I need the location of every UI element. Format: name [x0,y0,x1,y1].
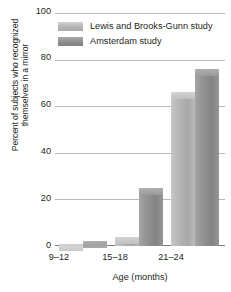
bar-amsterdam-9-12 [83,241,107,246]
bar-top-cap [171,92,195,99]
bar-top-cap [115,237,139,244]
bar-lewis-9-12 [59,244,83,246]
y-tick-label-0: 0 [21,240,51,250]
bar-lewis-21-24 [171,92,195,246]
y-axis-title-line-1: Percent of subjects who recognized [10,19,21,151]
bar-amsterdam-21-24 [195,69,219,246]
x-tick-label-9-12: 9–12 [29,252,89,262]
bar-lewis-15-18 [115,237,139,246]
y-tick-label-20: 20 [21,193,51,203]
bar-top-cap [139,188,163,195]
y-tick-label-40: 40 [21,146,51,156]
x-axis-title: Age (months) [55,272,225,282]
legend-label-amsterdam: Amsterdam study [90,36,161,46]
y-axis-title: Percent of subjects who recognized thems… [5,0,35,185]
legend-label-lewis: Lewis and Brooks-Gunn study [90,21,213,31]
y-tick-label-100: 100 [21,6,51,16]
legend-item-amsterdam: Amsterdam study [58,34,213,48]
bar-top-cap [195,69,219,76]
y-tick-label-80: 80 [21,52,51,62]
legend-item-lewis: Lewis and Brooks-Gunn study [58,19,213,33]
y-axis-title-line-2: themselves in a mirror [20,19,31,151]
legend: Lewis and Brooks-Gunn study Amsterdam st… [58,19,213,49]
legend-swatch-dark-gray-icon [58,37,83,46]
bar-amsterdam-15-18 [139,188,163,246]
x-tick-label-21-24: 21–24 [141,252,201,262]
bar-top-cap [59,244,83,251]
legend-swatch-light-gray-icon [58,22,83,31]
bar-chart: Percent of subjects who recognized thems… [0,0,231,292]
bar-top-cap [83,241,107,248]
y-tick-label-60: 60 [21,99,51,109]
x-tick-label-15-18: 15–18 [85,252,145,262]
